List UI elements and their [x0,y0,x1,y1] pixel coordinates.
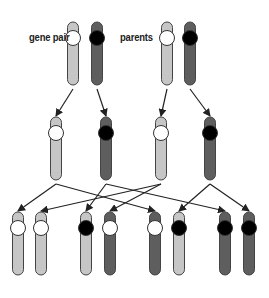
parents-label: parents [120,31,153,43]
black-allele-icon [242,221,257,236]
chromosome-parents-3 [183,22,198,85]
chromosome-gametes-2 [154,117,169,180]
chromosome-offspring-1 [34,212,49,275]
arrow-parent-to-gamete-3 [190,89,210,116]
arrow-gamete-to-offspring-7 [210,184,249,211]
inheritance-diagram: gene pair parents [0,0,269,298]
white-allele-icon [160,31,175,46]
chromosome-offspring-0 [11,212,26,275]
arrow-parent-to-gamete-2 [161,89,167,116]
gene-pair-label: gene pair [29,31,69,43]
arrow-gamete-to-offspring-0 [18,184,56,211]
chromosomes-layer [11,22,257,275]
chromosome-parents-1 [90,22,105,85]
chromosome-parents-2 [160,22,175,85]
diagram-canvas [0,0,269,298]
white-allele-icon [154,126,169,141]
chromosome-offspring-4 [148,212,163,275]
chromosome-offspring-5 [172,212,187,275]
black-allele-icon [203,126,218,141]
white-allele-icon [148,221,163,236]
chromosome-gametes-0 [49,117,64,180]
black-allele-icon [183,31,198,46]
black-allele-icon [99,126,114,141]
arrow-gamete-to-offspring-4 [41,184,161,211]
chromosome-offspring-6 [218,212,233,275]
arrow-gamete-to-offspring-5 [110,184,161,211]
black-allele-icon [172,221,187,236]
chromosome-gametes-3 [203,117,218,180]
black-allele-icon [218,221,233,236]
arrow-gamete-to-offspring-3 [106,184,225,211]
white-allele-icon [49,126,64,141]
arrow-parent-to-gamete-0 [56,89,73,116]
arrow-parent-to-gamete-1 [97,89,106,116]
black-allele-icon [90,31,105,46]
chromosome-offspring-7 [242,212,257,275]
white-allele-icon [11,221,26,236]
chromosome-offspring-2 [79,212,94,275]
chromosome-offspring-3 [103,212,118,275]
black-allele-icon [79,221,94,236]
arrow-gamete-to-offspring-1 [56,184,155,211]
white-allele-icon [34,221,49,236]
white-allele-icon [103,221,118,236]
chromosome-gametes-1 [99,117,114,180]
